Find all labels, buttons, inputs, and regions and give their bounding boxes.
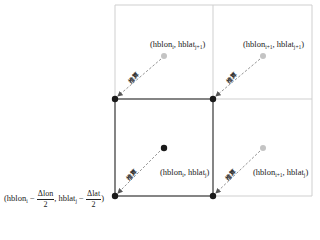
arrow-top-right xyxy=(216,59,260,96)
arrow-top-mid xyxy=(118,59,161,96)
label-corner-formula: (hbloni − Δlon2, hblatj − Δlat2) xyxy=(4,190,104,209)
estimated-point-top-mid xyxy=(161,53,167,59)
corner-point-bottom-right xyxy=(210,193,216,199)
arrow-center xyxy=(118,151,160,193)
fraction-dlon: Δlon2 xyxy=(37,190,54,209)
label-right-mid: (hbloni+1, hblatj) xyxy=(253,168,308,179)
label-top-right: (hbloni+1, hblatj+1) xyxy=(243,40,304,51)
corner-point-top-left xyxy=(112,96,118,102)
estimated-point-right-mid xyxy=(260,145,266,151)
corner-point-bottom-left xyxy=(112,193,118,199)
estimated-point-top-right xyxy=(260,53,266,59)
fraction-dlat: Δlat2 xyxy=(86,190,101,209)
label-center: (hbloni, hblatj) xyxy=(160,168,209,179)
center-point xyxy=(161,145,167,151)
corner-point-top-right xyxy=(210,96,216,102)
label-top-mid: (hbloni, hblatj+1) xyxy=(150,40,205,51)
